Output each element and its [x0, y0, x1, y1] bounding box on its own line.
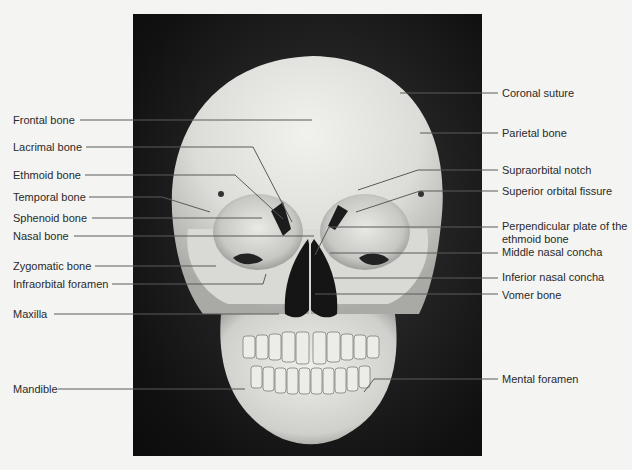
- leader-perpendicular: [315, 227, 498, 255]
- leader-infraorbital: [112, 274, 266, 284]
- label-middle-concha: Middle nasal concha: [502, 246, 602, 259]
- label-infraorbital: Infraorbital foramen: [13, 278, 108, 291]
- leader-superior-orbital: [356, 191, 498, 212]
- label-sphenoid: Sphenoid bone: [13, 212, 87, 225]
- label-lacrimal: Lacrimal bone: [13, 141, 82, 154]
- label-ethmoid: Ethmoid bone: [13, 169, 81, 182]
- leader-supraorbital: [358, 170, 498, 190]
- label-coronal: Coronal suture: [502, 87, 574, 100]
- label-vomer: Vomer bone: [502, 289, 561, 302]
- label-inferior-concha: Inferior nasal concha: [502, 271, 604, 284]
- label-maxilla: Maxilla: [13, 308, 47, 321]
- leader-temporal: [89, 197, 210, 212]
- label-superior-orbital: Superior orbital fissure: [502, 185, 612, 198]
- label-mandible: Mandible: [13, 383, 58, 396]
- label-mental: Mental foramen: [502, 373, 578, 386]
- label-supraorbital: Supraorbital notch: [502, 164, 591, 177]
- label-perpendicular: Perpendicular plate of the ethmoid bone: [502, 220, 632, 246]
- label-parietal: Parietal bone: [502, 127, 567, 140]
- leader-mental: [364, 379, 498, 392]
- label-nasal: Nasal bone: [13, 230, 69, 243]
- leader-lacrimal: [86, 147, 292, 222]
- label-zygomatic: Zygomatic bone: [13, 260, 91, 273]
- label-temporal: Temporal bone: [13, 191, 86, 204]
- label-frontal: Frontal bone: [13, 114, 75, 127]
